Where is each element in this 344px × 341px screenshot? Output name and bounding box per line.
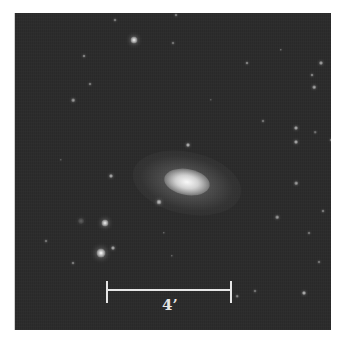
star bbox=[314, 131, 317, 134]
star bbox=[312, 85, 316, 89]
star bbox=[78, 218, 84, 224]
star bbox=[294, 181, 298, 185]
star bbox=[111, 246, 115, 250]
star bbox=[83, 55, 86, 58]
star bbox=[246, 62, 249, 65]
star bbox=[236, 295, 239, 298]
star bbox=[308, 232, 311, 235]
star bbox=[275, 215, 279, 219]
scale-bar-left-tick bbox=[106, 281, 108, 303]
star bbox=[319, 61, 323, 65]
star bbox=[172, 42, 175, 45]
star bbox=[45, 240, 48, 243]
star bbox=[302, 291, 306, 295]
star bbox=[89, 83, 92, 86]
scale-bar-right-tick bbox=[230, 281, 232, 303]
star bbox=[254, 290, 257, 293]
star bbox=[186, 143, 190, 147]
star bbox=[330, 139, 332, 142]
star bbox=[311, 74, 314, 77]
star bbox=[318, 261, 321, 264]
star bbox=[102, 220, 109, 227]
star bbox=[262, 120, 265, 123]
scale-bar-label: 4’ bbox=[162, 296, 178, 314]
star bbox=[109, 174, 113, 178]
star bbox=[97, 249, 106, 258]
star bbox=[71, 98, 75, 102]
star bbox=[114, 19, 117, 22]
star bbox=[72, 262, 75, 265]
star bbox=[131, 37, 138, 44]
star bbox=[322, 210, 325, 213]
star bbox=[294, 126, 298, 130]
star bbox=[294, 140, 298, 144]
star bbox=[175, 14, 178, 17]
scale-bar-line bbox=[106, 289, 232, 291]
